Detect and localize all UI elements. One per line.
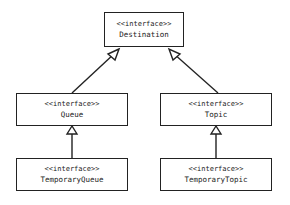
- stereotype-label: <<interface>>: [117, 20, 172, 29]
- node-name: TemporaryQueue: [40, 174, 103, 185]
- node-temporary-topic: <<interface>> TemporaryTopic: [160, 158, 272, 191]
- stereotype-label: <<interface>>: [45, 165, 100, 174]
- node-name: Queue: [61, 109, 84, 120]
- node-name: TemporaryTopic: [184, 174, 247, 185]
- stereotype-label: <<interface>>: [45, 100, 100, 109]
- node-name: Destination: [119, 29, 169, 40]
- edge-topic-destination: [173, 53, 218, 93]
- node-destination: <<interface>> Destination: [104, 12, 184, 47]
- node-queue: <<interface>> Queue: [16, 93, 128, 126]
- stereotype-label: <<interface>>: [189, 165, 244, 174]
- stereotype-label: <<interface>>: [189, 100, 244, 109]
- edge-queue-destination: [72, 53, 115, 93]
- arrowhead-icon: [211, 126, 221, 134]
- node-name: Topic: [205, 109, 228, 120]
- arrowhead-icon: [67, 126, 77, 134]
- node-temporary-queue: <<interface>> TemporaryQueue: [16, 158, 128, 191]
- node-topic: <<interface>> Topic: [160, 93, 272, 126]
